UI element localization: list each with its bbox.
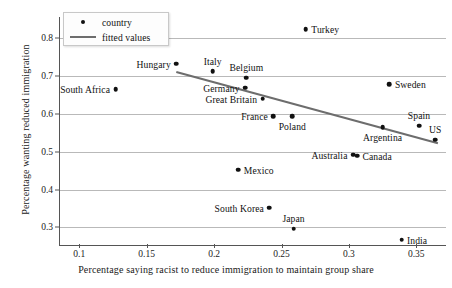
- data-point: [267, 205, 272, 210]
- data-point-label: Great Britain: [205, 93, 257, 104]
- data-point: [290, 114, 295, 119]
- data-point-label: Japan: [282, 213, 304, 224]
- data-point-label: Turkey: [311, 24, 339, 35]
- data-point: [399, 237, 404, 242]
- data-point-label: Australia: [311, 149, 347, 160]
- data-point-label: Mexico: [244, 164, 274, 175]
- fitted-line-marker-icon: [64, 36, 102, 38]
- data-point: [380, 125, 385, 130]
- data-point: [433, 137, 438, 142]
- data-point-label: Belgium: [230, 62, 264, 73]
- data-point-label: US: [429, 124, 441, 135]
- legend-entry-fitted-values: fitted values: [64, 29, 168, 45]
- x-axis-title: Percentage saying racist to reduce immig…: [0, 264, 452, 275]
- legend: country fitted values: [63, 12, 169, 46]
- data-point: [236, 168, 241, 173]
- data-point: [174, 61, 179, 66]
- data-point-label: India: [407, 234, 427, 245]
- data-point-label: Sweden: [395, 79, 426, 90]
- data-point-label: Poland: [279, 121, 306, 132]
- data-point: [304, 27, 309, 32]
- data-point-label: Hungary: [137, 58, 171, 69]
- data-point-label: South Africa: [60, 84, 110, 95]
- data-point-label: South Korea: [215, 202, 264, 213]
- y-axis-title: Percentage wanting reduced immigration: [20, 8, 31, 252]
- data-point-label: Canada: [363, 150, 392, 161]
- data-point: [113, 87, 118, 92]
- data-point-label: Spain: [408, 110, 430, 121]
- country-marker-icon: [64, 20, 102, 24]
- data-point: [243, 85, 248, 90]
- scatter-plot-figure: 0.80.70.60.50.40.3 0.10.150.20.250.30.35…: [0, 0, 452, 288]
- data-point: [260, 96, 265, 101]
- legend-label-fitted-values: fitted values: [102, 32, 150, 43]
- data-point: [355, 154, 360, 159]
- legend-label-country: country: [102, 17, 132, 28]
- data-point: [244, 75, 249, 80]
- data-point: [417, 124, 422, 129]
- data-point: [387, 82, 392, 87]
- data-point-label: France: [241, 111, 268, 122]
- data-point: [271, 114, 276, 119]
- data-point: [291, 226, 296, 231]
- data-point: [210, 69, 215, 74]
- legend-entry-country: country: [64, 14, 168, 30]
- data-point-label: Argentina: [363, 132, 402, 143]
- data-point-label: Germany: [203, 82, 239, 93]
- data-point-label: Italy: [204, 56, 222, 67]
